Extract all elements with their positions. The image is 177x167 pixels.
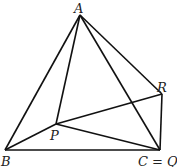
segment-RP [56, 94, 162, 124]
segment-AP [56, 15, 80, 124]
segment-PC [56, 124, 160, 150]
label-P: P [49, 128, 59, 143]
label-C: C = Q [138, 154, 177, 167]
label-B: B [0, 154, 11, 167]
segment-RC [160, 94, 162, 150]
label-R: R [156, 80, 167, 95]
segment-AC [80, 15, 160, 150]
segment-AB [5, 15, 80, 150]
geometry-diagram: A B C = Q R P [0, 0, 177, 167]
segment-AR [80, 15, 162, 94]
label-A: A [73, 1, 83, 16]
